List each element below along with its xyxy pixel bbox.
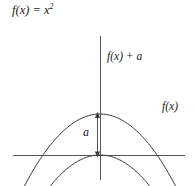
curve-shifted-fx-plus-a [15,114,185,186]
offset-arrow [95,112,100,158]
curve-base-label: f(x) [162,101,178,113]
figure-canvas: f(x) = x2 f(x) + a f(x) a [0,0,195,186]
arrow-head-down [95,151,100,157]
parabola-diagram [0,0,195,186]
function-title-label: f(x) = x2 [12,4,53,17]
arrow-head-up [95,112,100,118]
offset-amount-label: a [83,126,89,138]
curve-shifted-fx-plus-a-shape [22,37,100,138]
curve-shifted-label: f(x) + a [107,51,142,63]
